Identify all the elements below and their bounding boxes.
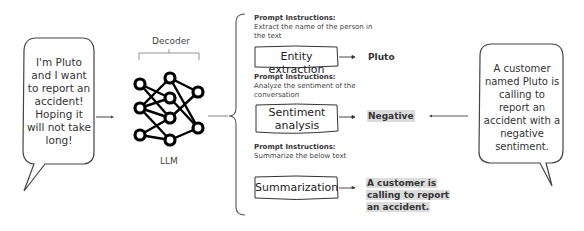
prompt-text-entity: Extract the name of the person in the te… — [254, 23, 372, 41]
prompt-heading-sentiment: Prompt Instructions: — [254, 73, 336, 81]
arrow-input-to-llm — [96, 116, 114, 119]
output-bubble-line: accident with a — [481, 114, 563, 127]
output-line: an accident. — [366, 202, 430, 212]
task-line: analysis — [256, 119, 338, 132]
input-line: will not take — [26, 121, 92, 134]
entity-output: Pluto — [368, 51, 395, 63]
summary-output: A customer is calling to report an accid… — [366, 177, 450, 213]
prompt-line: Analyze the sentiment of the — [254, 82, 356, 91]
output-line: Pluto — [368, 51, 395, 63]
output-bubble-line: sentiment. — [481, 140, 563, 153]
output-bubble-text: A customer named Pluto is calling to rep… — [481, 62, 563, 153]
input-line: long! — [26, 134, 92, 147]
output-line: calling to report — [366, 190, 450, 200]
prompt-text-sentiment: Analyze the sentiment of the conversatio… — [254, 82, 356, 100]
arrow-bubble-to-outputs — [429, 115, 468, 118]
sentiment-analysis-label: Sentiment analysis — [256, 106, 338, 132]
task-line: Summarization — [255, 181, 338, 194]
prompt-line: Summarize the below text — [254, 152, 346, 161]
sentiment-output: Negative — [367, 110, 415, 122]
prompt-line: conversation — [254, 91, 356, 100]
decoder-label: Decoder — [152, 36, 190, 46]
output-bubble-line: report an — [481, 101, 563, 114]
output-line: Negative — [367, 110, 415, 122]
output-bubble-line: calling to — [481, 88, 563, 101]
input-line: accident! — [26, 95, 92, 108]
output-bubble-line: named Pluto is — [481, 75, 563, 88]
summarization-label: Summarization — [255, 181, 338, 194]
input-line: to report an — [26, 82, 92, 95]
decoder-bracket — [139, 49, 199, 60]
neural-network-icon — [135, 73, 203, 145]
prompt-line: Extract the name of the person in — [254, 23, 372, 32]
task-brace — [229, 14, 245, 215]
input-line: Hoping it — [26, 108, 92, 121]
task-line: Sentiment — [256, 106, 338, 119]
prompt-text-summary: Summarize the below text — [254, 152, 346, 161]
output-bubble-line: negative — [481, 127, 563, 140]
input-bubble-text: I'm Pluto and I want to report an accide… — [26, 56, 92, 147]
output-line: A customer is — [366, 178, 437, 188]
prompt-line: the text — [254, 32, 372, 41]
prompt-heading-entity: Prompt Instructions: — [254, 14, 336, 22]
llm-label: LLM — [160, 156, 178, 166]
input-line: I'm Pluto — [26, 56, 92, 69]
prompt-heading-summary: Prompt Instructions: — [254, 143, 336, 151]
output-bubble-line: A customer — [481, 62, 563, 75]
input-line: and I want — [26, 69, 92, 82]
